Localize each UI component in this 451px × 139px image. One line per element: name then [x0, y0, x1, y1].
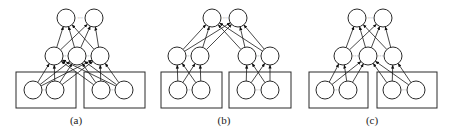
panel-c-edge-hidden-to-output	[346, 26, 354, 47]
panel-b-bottom-node-0	[169, 81, 187, 99]
panel-c-edge-hidden-to-output	[363, 25, 387, 50]
panel-a-top-node-1	[85, 9, 103, 27]
input-group-boxes	[16, 72, 437, 108]
panel-c-top-node-1	[374, 9, 392, 27]
panel-c-ellipsis: ···	[353, 52, 359, 59]
panel-c-bottom-node-0	[316, 81, 334, 99]
panel-a-ellipsis: ···	[86, 52, 92, 59]
panel-a-bottom-node-1	[46, 81, 64, 99]
panel-b-mid-node-0	[168, 47, 186, 65]
panel-a-edge-input-to-hidden	[60, 64, 72, 83]
panel-a-ellipsis: ···	[77, 14, 83, 21]
panel-c-mid-node-1	[359, 47, 377, 65]
panel-c-edge-hidden-to-output	[385, 27, 390, 48]
panel-b-edge-hidden-to-output	[185, 23, 231, 51]
panel-b-caption: (b)	[218, 114, 231, 127]
panel-b-ellipsis: ···	[186, 52, 192, 59]
panel-a-mid-node-2	[91, 47, 109, 65]
panel-c-ellipsis: ···	[367, 14, 373, 21]
panel-a-ellipsis: ···	[63, 52, 69, 59]
panel-a-edge-input-to-hidden	[38, 64, 50, 83]
panel-b-bottom-node-3	[261, 81, 279, 99]
panel-c-ellipsis: ···	[334, 86, 340, 93]
panel-a-bottom-node-0	[24, 81, 42, 99]
neural-network-diagram: ···············(a)···············(b)····…	[0, 0, 451, 139]
panel-c-ellipsis: ···	[401, 86, 407, 93]
panel-b-ellipsis: ···	[187, 86, 193, 93]
panel-c-edge-hidden-to-output	[360, 27, 366, 48]
panel-b-ellipsis: ···	[255, 86, 261, 93]
panel-a-top-node-0	[57, 9, 75, 27]
panel-b-bottom-node-1	[192, 81, 210, 99]
panel-b-mid-node-1	[191, 47, 209, 65]
panel-b-edge-hidden-to-output	[218, 25, 241, 50]
panel-c-mid-node-2	[384, 47, 402, 65]
panel-a-bottom-node-2	[92, 81, 110, 99]
panel-c-caption: (c)	[366, 114, 379, 127]
panel-a-mid-node-1	[68, 47, 86, 65]
panel-a-caption: (a)	[70, 114, 83, 127]
panel-c-ellipsis: ···	[378, 52, 384, 59]
panel-a-edge-hidden-to-output	[95, 27, 98, 47]
panel-b-ellipsis: ···	[222, 14, 228, 21]
panel-a-ellipsis: ···	[110, 86, 116, 93]
panel-b-edge-hidden-to-output	[203, 27, 210, 48]
panel-a-edge-hidden-to-output	[57, 27, 64, 48]
panel-c-edge-input-to-hidden	[373, 63, 387, 82]
panel-b-edge-hidden-to-output	[220, 23, 263, 51]
panel-b-bottom-node-2	[237, 81, 255, 99]
panel-a-ellipsis: ···	[41, 86, 47, 93]
panel-b-ellipsis: ···	[256, 52, 262, 59]
panel-b-mid-node-3	[261, 47, 279, 65]
panel-c-edge-input-to-hidden	[329, 64, 339, 82]
panel-b-top-node-1	[229, 9, 247, 27]
panel-c-bottom-node-2	[383, 81, 401, 99]
panel-c-edge-input-to-hidden	[398, 63, 411, 82]
panel-b-top-node-0	[203, 9, 221, 27]
panel-c-bottom-node-3	[407, 81, 425, 99]
panel-a-bottom-node-3	[115, 81, 133, 99]
panel-c-mid-node-0	[334, 47, 352, 65]
panel-c-bottom-node-1	[339, 81, 357, 99]
panel-b-edge-hidden-to-output	[183, 25, 206, 50]
panel-c-top-node-0	[348, 9, 366, 27]
panel-b-mid-node-2	[238, 47, 256, 65]
panel-a-mid-node-0	[45, 47, 63, 65]
panel-a-edge-input-to-hidden	[105, 63, 119, 82]
